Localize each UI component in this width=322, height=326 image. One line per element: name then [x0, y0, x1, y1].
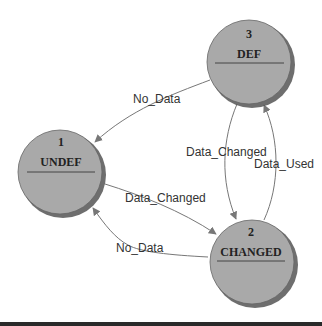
edge-def-to-undef[interactable]: No_Data	[95, 80, 210, 142]
edge-label-no-data-3-1: No_Data	[133, 92, 181, 106]
bottom-border	[0, 322, 322, 326]
state-diagram: No_Data Data_Changed No_Data Data_Change…	[0, 0, 322, 326]
node-changed[interactable]: 2 CHANGED	[210, 220, 298, 308]
edge-label-data-used-2-3: Data_Used	[254, 157, 314, 171]
edge-changed-to-undef[interactable]: No_Data	[93, 208, 208, 257]
node-undef[interactable]: 1 UNDEF	[18, 130, 106, 218]
node-name: DEF	[237, 47, 261, 61]
edge-undef-to-changed[interactable]: Data_Changed	[105, 184, 216, 234]
node-number: 2	[248, 225, 254, 239]
node-number: 3	[246, 27, 252, 41]
edge-label-data-changed-1-2: Data_Changed	[125, 191, 206, 205]
node-number: 1	[58, 135, 64, 149]
edge-changed-to-def[interactable]: Data_Used	[254, 105, 314, 220]
edge-label-no-data-2-1: No_Data	[116, 241, 164, 255]
node-name: CHANGED	[220, 245, 282, 259]
node-def[interactable]: 3 DEF	[207, 20, 295, 108]
node-name: UNDEF	[40, 155, 81, 169]
